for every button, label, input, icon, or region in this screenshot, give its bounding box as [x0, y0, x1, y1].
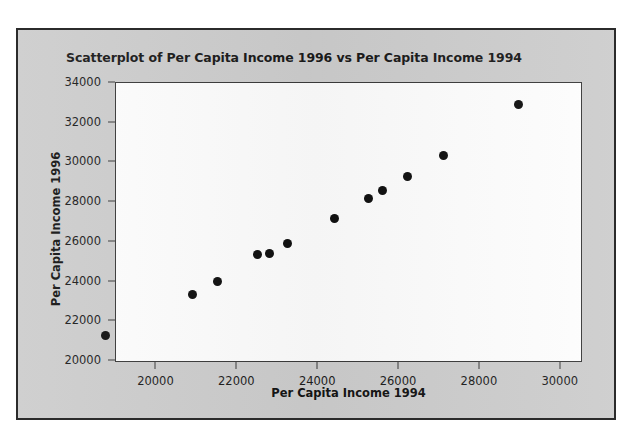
- y-tick-label: 24000: [64, 274, 101, 288]
- screenshot-root: Scatterplot of Per Capita Income 1996 vs…: [0, 0, 632, 443]
- x-tick-mark: [236, 362, 237, 369]
- x-tick-mark: [398, 362, 399, 369]
- y-axis-title: Per Capita Income 1996: [49, 129, 63, 329]
- y-tick-label: 28000: [64, 194, 101, 208]
- x-tick-mark: [478, 362, 479, 369]
- y-tick-label: 30000: [64, 154, 101, 168]
- y-tick-mark: [108, 240, 115, 241]
- y-tick-label: 22000: [64, 313, 101, 327]
- y-tick-mark: [108, 360, 115, 361]
- x-tick-mark: [559, 362, 560, 369]
- data-point: [514, 100, 523, 109]
- x-axis-title: Per Capita Income 1994: [115, 386, 582, 400]
- data-point: [364, 194, 373, 203]
- data-point: [188, 290, 197, 299]
- x-tick-mark: [317, 362, 318, 369]
- data-point: [378, 186, 387, 195]
- y-tick-label: 20000: [64, 353, 101, 367]
- data-point: [213, 277, 222, 286]
- y-tick-label: 32000: [64, 115, 101, 129]
- y-tick-mark: [108, 280, 115, 281]
- y-tick-mark: [108, 201, 115, 202]
- x-tick-mark: [155, 362, 156, 369]
- data-point: [330, 214, 339, 223]
- y-tick-mark: [108, 121, 115, 122]
- y-tick-label: 34000: [64, 75, 101, 89]
- data-point: [403, 172, 412, 181]
- y-tick-mark: [108, 82, 115, 83]
- y-axis: 2000022000240002600028000300003200034000: [18, 30, 115, 422]
- y-tick-mark: [108, 320, 115, 321]
- data-point: [439, 151, 448, 160]
- y-tick-label: 26000: [64, 234, 101, 248]
- chart-title: Scatterplot of Per Capita Income 1996 vs…: [66, 50, 522, 65]
- data-point: [283, 239, 292, 248]
- data-point: [265, 249, 274, 258]
- figure-panel: Scatterplot of Per Capita Income 1996 vs…: [16, 28, 616, 420]
- data-point: [253, 250, 262, 259]
- y-tick-mark: [108, 161, 115, 162]
- plot-area: [115, 82, 582, 362]
